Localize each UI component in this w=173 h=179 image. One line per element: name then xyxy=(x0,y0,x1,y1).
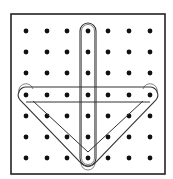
peg xyxy=(127,135,132,140)
peg xyxy=(127,50,132,55)
peg xyxy=(148,135,153,140)
peg xyxy=(86,71,91,76)
peg xyxy=(24,135,29,140)
peg xyxy=(127,29,132,34)
peg xyxy=(65,29,70,34)
peg xyxy=(45,93,50,98)
peg xyxy=(127,156,132,161)
peg xyxy=(24,156,29,161)
peg xyxy=(148,93,153,98)
peg xyxy=(86,156,91,161)
peg xyxy=(45,50,50,55)
peg xyxy=(65,135,70,140)
peg xyxy=(106,114,111,119)
peg xyxy=(106,71,111,76)
peg xyxy=(86,29,91,34)
peg xyxy=(86,93,91,98)
peg xyxy=(86,114,91,119)
peg xyxy=(24,71,29,76)
peg xyxy=(65,50,70,55)
peg xyxy=(86,50,91,55)
peg xyxy=(45,29,50,34)
peg xyxy=(24,93,29,98)
peg xyxy=(65,156,70,161)
peg xyxy=(45,135,50,140)
peg xyxy=(127,93,132,98)
peg xyxy=(148,156,153,161)
peg xyxy=(65,93,70,98)
peg xyxy=(24,29,29,34)
peg xyxy=(148,114,153,119)
peg xyxy=(148,50,153,55)
peg xyxy=(127,71,132,76)
peg xyxy=(106,50,111,55)
peg xyxy=(65,114,70,119)
peg xyxy=(45,71,50,76)
peg xyxy=(106,29,111,34)
peg xyxy=(148,29,153,34)
geoboard-diagram xyxy=(0,0,173,179)
peg xyxy=(45,156,50,161)
peg xyxy=(106,93,111,98)
peg xyxy=(24,50,29,55)
peg xyxy=(65,71,70,76)
peg xyxy=(24,114,29,119)
peg xyxy=(86,135,91,140)
peg xyxy=(106,156,111,161)
peg xyxy=(148,71,153,76)
